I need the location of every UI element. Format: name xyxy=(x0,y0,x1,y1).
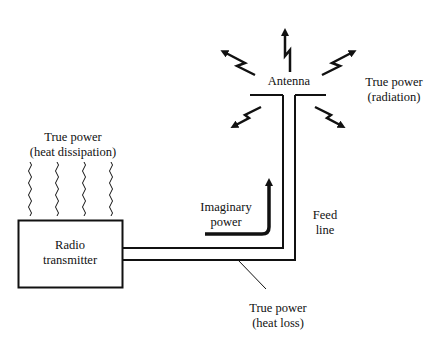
transmitter-line1: Radio xyxy=(18,238,122,253)
imaginary-power-label: Imaginary power xyxy=(196,200,256,230)
heat-dissipation-label: True power (heat dissipation) xyxy=(18,130,128,160)
imaginary-line2: power xyxy=(196,215,256,230)
heat-loss-label: True power (heat loss) xyxy=(239,301,317,331)
radiation-line2: (radiation) xyxy=(356,90,432,105)
heat-loss-line1: True power xyxy=(239,301,317,316)
heat-loss-pointer xyxy=(238,260,266,289)
radiation-label: True power (radiation) xyxy=(356,75,432,105)
heat-wavy-lines-icon xyxy=(29,162,113,216)
transmitter-label: Radio transmitter xyxy=(18,238,122,268)
heat-loss-line2: (heat loss) xyxy=(239,316,317,331)
feed-line2: line xyxy=(305,223,345,238)
feed-line-label: Feed line xyxy=(305,208,345,238)
transmitter-line2: transmitter xyxy=(18,253,122,268)
radiation-line1: True power xyxy=(356,75,432,90)
heat-dissipation-line1: True power xyxy=(18,130,128,145)
feed-line1: Feed xyxy=(305,208,345,223)
diagram-canvas xyxy=(0,0,432,338)
imaginary-line1: Imaginary xyxy=(196,200,256,215)
antenna-label: Antenna xyxy=(259,74,319,89)
heat-dissipation-line2: (heat dissipation) xyxy=(18,145,128,160)
